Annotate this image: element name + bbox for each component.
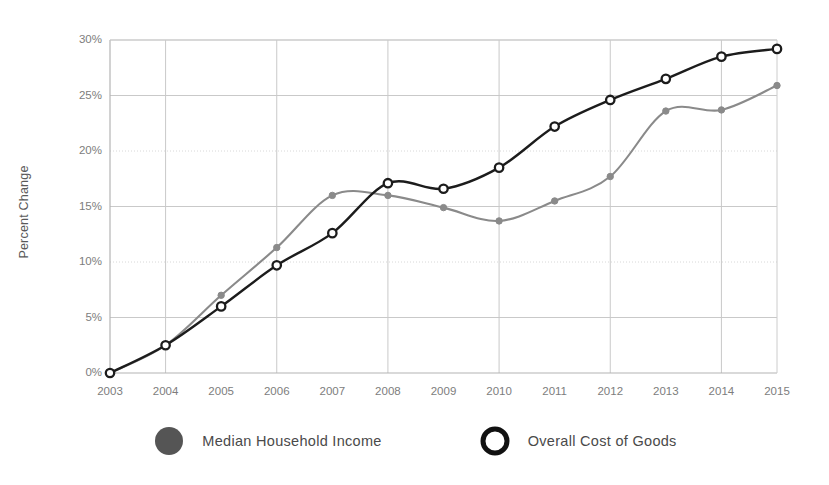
open-circle-icon [478, 424, 512, 458]
filled-circle-icon [152, 424, 186, 458]
legend-item-median-household-income: Median Household Income [152, 424, 381, 458]
series-markers [106, 45, 781, 378]
line-chart: Percent Change 0%5%10%15%20%25%30% 20032… [0, 0, 829, 485]
legend-label-median-household-income: Median Household Income [202, 433, 381, 449]
chart-legend: Median Household Income Overall Cost of … [0, 424, 829, 458]
plot-area [0, 0, 829, 485]
legend-label-overall-cost-of-goods: Overall Cost of Goods [528, 433, 677, 449]
legend-item-overall-cost-of-goods: Overall Cost of Goods [478, 424, 677, 458]
